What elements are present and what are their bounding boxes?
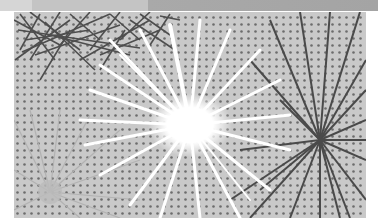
fireworks-illustration (14, 12, 366, 218)
halftone-panel (14, 12, 366, 218)
top-strip (0, 0, 378, 11)
